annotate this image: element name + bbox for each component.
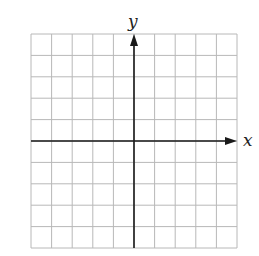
coordinate-plane: x y [0,0,259,256]
x-axis-label: x [243,130,253,150]
y-axis-arrow-icon [130,34,138,46]
y-axis-label: y [127,11,138,31]
axes [31,34,237,248]
x-axis-arrow-icon [225,137,237,145]
